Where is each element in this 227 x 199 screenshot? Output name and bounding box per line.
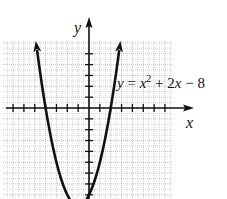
parabola-graph: y x y = x2 + 2x − 8 [0, 0, 227, 199]
equation-label: y = x2 + 2x − 8 [115, 73, 205, 91]
x-axis-label: x [185, 114, 193, 131]
y-axis-label: y [72, 19, 82, 37]
